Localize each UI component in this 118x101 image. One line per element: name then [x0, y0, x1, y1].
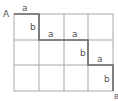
path-label: b: [104, 74, 110, 84]
path-label: a: [48, 29, 54, 39]
path-label: b: [30, 22, 36, 32]
path-label: b: [80, 48, 86, 58]
path-label: a: [72, 29, 78, 39]
grid: [14, 14, 113, 91]
path-label: a: [97, 54, 103, 64]
end-point-label: B: [114, 93, 118, 101]
start-point-label: A: [3, 9, 10, 19]
path-label: a: [22, 3, 28, 13]
grid-path-diagram: A B a b a a b a b: [0, 0, 118, 101]
